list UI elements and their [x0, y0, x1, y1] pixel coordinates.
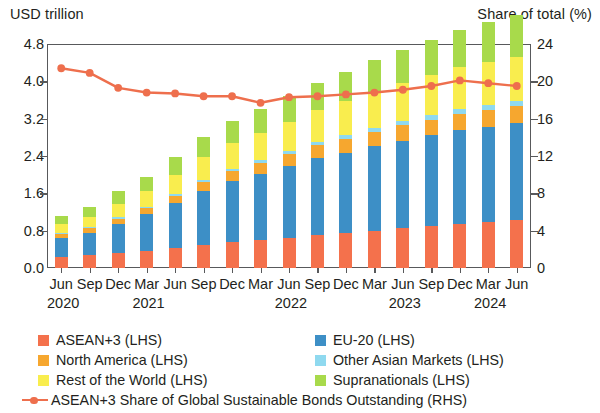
bar-segment [339, 153, 352, 234]
x-axis-month-label: Mar [474, 277, 502, 292]
x-axis-month-label: Jun [275, 277, 303, 292]
x-axis-tick-mark [346, 268, 347, 273]
legend-item[interactable]: North America (LHS) [38, 352, 188, 368]
legend-color-swatch [315, 335, 326, 346]
bar-segment [83, 207, 96, 217]
bar-segment [339, 72, 352, 101]
stacked-bar [283, 96, 296, 268]
bar-segment [197, 137, 210, 157]
bar-segment [169, 194, 182, 196]
x-axis-tick-mark [118, 268, 119, 273]
legend-color-swatch [315, 355, 326, 366]
x-axis-month-label: Sep [417, 277, 445, 292]
legend-item-label: ASEAN+3 Share of Global Sustainable Bond… [51, 392, 467, 408]
legend-item[interactable]: EU-20 (LHS) [315, 332, 415, 348]
bar-segment [283, 238, 296, 268]
bar-segment [368, 92, 381, 128]
bar-segment [112, 217, 125, 218]
legend-item[interactable]: ASEAN+3 (LHS) [38, 332, 162, 348]
x-axis-month-label: Sep [303, 277, 331, 292]
bar-segment [55, 257, 68, 268]
bar-segment [226, 143, 239, 168]
bar-segment [311, 110, 324, 142]
stacked-bar [197, 137, 210, 268]
bar-segment [482, 22, 495, 62]
bar-segment [226, 242, 239, 268]
bar-segment [83, 233, 96, 256]
left-axis-tick-mark [40, 81, 47, 82]
bar-segment [254, 109, 267, 133]
bar-segment [425, 226, 438, 268]
bar-segment [396, 125, 409, 140]
bar-segment [283, 154, 296, 166]
stacked-bar [368, 60, 381, 268]
bar-segment [311, 158, 324, 235]
stacked-bar [425, 40, 438, 268]
stacked-bar [510, 15, 523, 268]
left-axis-tick-label: 0.0 [24, 261, 44, 276]
x-axis-tick-mark [431, 268, 432, 273]
x-axis-tick-mark [374, 268, 375, 273]
bar-segment [396, 121, 409, 125]
legend-item-label: ASEAN+3 (LHS) [56, 332, 162, 348]
bar-segment [169, 175, 182, 194]
bar-segment [482, 222, 495, 268]
x-axis-tick-mark [460, 268, 461, 273]
bar-segment [482, 105, 495, 110]
x-axis-month-label: Sep [189, 277, 217, 292]
bar-segment [112, 219, 125, 224]
x-axis-month-label: Mar [132, 277, 160, 292]
x-axis-tick-mark [147, 268, 148, 273]
bar-segment [510, 57, 523, 102]
bar-segment [425, 115, 438, 119]
x-axis-tick-mark [317, 268, 318, 273]
legend-color-swatch [38, 355, 49, 366]
legend-item[interactable]: Other Asian Markets (LHS) [315, 352, 504, 368]
bar-segment [55, 233, 68, 234]
legend-item-label: North America (LHS) [56, 352, 188, 368]
x-axis-month-label: Sep [75, 277, 103, 292]
bar-segment [112, 191, 125, 203]
bar-segment [55, 216, 68, 224]
x-axis-month-label: Dec [104, 277, 132, 292]
bar-segment [254, 160, 267, 163]
bar-segment [453, 130, 466, 224]
bar-segment [140, 191, 153, 207]
bar-segment [83, 228, 96, 232]
stacked-bar [112, 191, 125, 268]
legend-item[interactable]: Rest of the World (LHS) [38, 372, 208, 388]
legend-item-label: Other Asian Markets (LHS) [333, 352, 504, 368]
bar-segment [453, 224, 466, 268]
right-axis-tick-label: 24 [537, 37, 553, 52]
bar-segment [283, 96, 296, 122]
bar-segment [226, 121, 239, 143]
stacked-bar [396, 50, 409, 268]
bar-segment [83, 255, 96, 268]
bar-segment [339, 139, 352, 153]
bar-segment [112, 224, 125, 253]
bar-segment [254, 240, 267, 268]
bar-segment [197, 245, 210, 268]
stacked-bar [482, 22, 495, 268]
bar-segment [368, 128, 381, 132]
right-axis-tick-mark [531, 119, 538, 120]
bar-segment [396, 228, 409, 268]
bar-segment [368, 132, 381, 146]
x-axis-month-label: Mar [360, 277, 388, 292]
bar-segment [425, 120, 438, 136]
x-axis-tick-mark [261, 268, 262, 273]
bar-segment [425, 135, 438, 226]
left-axis-tick-mark [40, 119, 47, 120]
legend-item[interactable]: Supranationals (LHS) [315, 372, 470, 388]
bar-segment [83, 217, 96, 228]
bar-segment [482, 62, 495, 105]
legend-color-swatch [38, 335, 49, 346]
left-axis-tick-label: 4.8 [24, 37, 44, 52]
chart-legend: ASEAN+3 (LHS)EU-20 (LHS)North America (L… [0, 330, 600, 413]
bar-segment [510, 123, 523, 220]
legend-item[interactable]: ASEAN+3 Share of Global Sustainable Bond… [22, 392, 467, 408]
bar-segment [510, 101, 523, 106]
bar-segment [55, 224, 68, 233]
sustainable-bonds-chart: USD trillion Share of total (%) 4.84.03.… [0, 0, 600, 413]
bar-segment [510, 106, 523, 123]
